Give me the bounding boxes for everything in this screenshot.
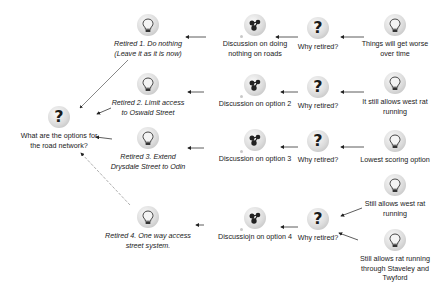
reason-node-2[interactable]: It still allows west rat running (355, 72, 435, 116)
why-label-1: Why retired? (298, 42, 339, 52)
question-icon: ? (48, 106, 70, 128)
retired-node-4[interactable]: Retired 4. One way access street system. (102, 206, 194, 250)
attachment-dot (240, 35, 243, 38)
why-label-4: Why retired? (298, 233, 339, 243)
question-icon: ? (307, 76, 329, 98)
attachment-dot (240, 95, 243, 98)
discussion-node-3[interactable]: Discussion on option 3 (211, 129, 299, 164)
attachment-dot (240, 228, 243, 231)
reason-label-2: It still allows west rat running (362, 97, 428, 116)
reason-label-4b: Still allows rat running through Stavele… (360, 254, 430, 283)
map-icon (244, 74, 266, 96)
lightbulb-icon (137, 73, 159, 95)
lightbulb-icon (384, 229, 406, 251)
question-icon: ? (307, 130, 329, 152)
retired-node-1[interactable]: Retired 1. Do nothing (Leave it as it is… (108, 14, 188, 58)
reason-node-4b[interactable]: Still allows rat running through Stavele… (355, 229, 435, 283)
reason-label-4a: Still allows west rat running (365, 199, 426, 218)
root-label: What are the options for the road networ… (21, 131, 98, 150)
lightbulb-icon (384, 174, 406, 196)
reason-node-1[interactable]: Things will get worse over time (355, 14, 435, 58)
lightbulb-icon (384, 14, 406, 36)
discussion-label-3: Discussion on option 3 (219, 154, 291, 164)
retired-node-3[interactable]: Retired 3. Extend Drysdale Street to Odi… (104, 127, 192, 171)
attachment-dot (240, 150, 243, 153)
reason-node-4a[interactable]: Still allows west rat running (355, 174, 435, 218)
retired-node-2[interactable]: Retired 2. Limit access to Oswald Street (108, 73, 188, 117)
lightbulb-icon (384, 130, 406, 152)
reason-label-1: Things will get worse over time (362, 39, 429, 58)
map-icon (244, 129, 266, 151)
why-label-2: Why retired? (298, 101, 339, 111)
reason-node-3[interactable]: Lowest scoring option (355, 130, 435, 165)
discussion-label-2: Discussion on option 2 (219, 99, 291, 109)
discussion-node-4[interactable]: Discussiojn on option 4 (211, 207, 299, 242)
question-icon: ? (307, 208, 329, 230)
lightbulb-icon (137, 14, 159, 36)
retired-label-2: Retired 2. Limit access to Oswald Street (112, 98, 185, 117)
why-node-1[interactable]: ? Why retired? (293, 17, 343, 52)
retired-label-4: Retired 4. One way access street system. (105, 231, 191, 250)
retired-label-3: Retired 3. Extend Drysdale Street to Odi… (111, 152, 186, 171)
why-node-4[interactable]: ? Why retired? (293, 208, 343, 243)
lightbulb-icon (137, 206, 159, 228)
discussion-label-4: Discussiojn on option 4 (218, 232, 292, 242)
why-node-3[interactable]: ? Why retired? (293, 130, 343, 165)
map-icon (244, 14, 266, 36)
why-label-3: Why retired? (298, 155, 339, 165)
discussion-label-1: Discussion on doing nothing on roads (223, 39, 287, 58)
discussion-node-1[interactable]: Discussion on doing nothing on roads (215, 14, 295, 58)
map-icon (244, 207, 266, 229)
root-node[interactable]: ? What are the options for the road netw… (16, 106, 102, 150)
question-icon: ? (307, 17, 329, 39)
reason-label-3: Lowest scoring option (360, 155, 430, 165)
why-node-2[interactable]: ? Why retired? (293, 76, 343, 111)
lightbulb-icon (384, 72, 406, 94)
discussion-node-2[interactable]: Discussion on option 2 (211, 74, 299, 109)
retired-label-1: Retired 1. Do nothing (Leave it as it is… (114, 39, 182, 58)
lightbulb-icon (137, 127, 159, 149)
